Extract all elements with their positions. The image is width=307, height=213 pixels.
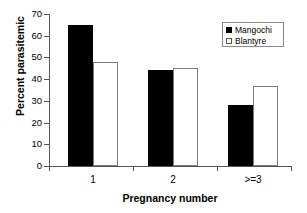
y-tick-40 xyxy=(44,79,49,80)
bar-blantyre-1 xyxy=(93,62,118,166)
x-axis-line xyxy=(49,166,291,167)
y-tick-label-10: 10 xyxy=(18,139,42,149)
bar-chart-figure: Percent parasitemic Pregnancy number 010… xyxy=(0,0,307,213)
y-tick-label-40: 40 xyxy=(18,74,42,84)
y-tick-label-60: 60 xyxy=(18,31,42,41)
bar-mangochi-1 xyxy=(68,25,93,166)
x-tick-1 xyxy=(133,166,134,171)
y-tick-60 xyxy=(44,36,49,37)
y-tick-70 xyxy=(44,14,49,15)
y-tick-10 xyxy=(44,144,49,145)
x-tick-0 xyxy=(49,166,50,171)
x-tick-3 xyxy=(291,166,292,171)
x-tick-label-2: >=3 xyxy=(208,174,298,185)
chart-legend: Mangochi Blantyre xyxy=(222,22,284,47)
bar-blantyre-2 xyxy=(173,68,198,166)
y-tick-label-70: 70 xyxy=(18,9,42,19)
x-axis-label: Pregnancy number xyxy=(49,192,291,204)
legend-swatch-mangochi xyxy=(226,27,232,33)
y-tick-label-20: 20 xyxy=(18,118,42,128)
y-tick-label-30: 30 xyxy=(18,96,42,106)
legend-label-mangochi: Mangochi xyxy=(235,26,272,35)
y-tick-20 xyxy=(44,123,49,124)
y-tick-label-0: 0 xyxy=(18,161,42,171)
legend-swatch-blantyre xyxy=(226,38,232,44)
legend-label-blantyre: Blantyre xyxy=(235,37,266,46)
x-tick-label-0: 1 xyxy=(48,174,138,185)
y-tick-30 xyxy=(44,101,49,102)
y-tick-50 xyxy=(44,57,49,58)
bar-mangochi-2 xyxy=(148,70,173,166)
bar-blantyre->=3 xyxy=(253,86,278,166)
x-tick-2 xyxy=(217,166,218,171)
bar-mangochi->=3 xyxy=(228,105,253,166)
y-tick-label-50: 50 xyxy=(18,52,42,62)
legend-item-0: Mangochi xyxy=(226,25,280,35)
legend-item-1: Blantyre xyxy=(226,36,280,46)
y-axis-line xyxy=(49,14,50,166)
x-tick-label-1: 2 xyxy=(128,174,218,185)
y-axis-label: Percent parasitemic xyxy=(14,0,26,136)
